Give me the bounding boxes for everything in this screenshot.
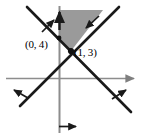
inequality-graph-figure: (0, 4) (1, 3) (0, 0, 145, 139)
y-intercept-point-dot (57, 36, 62, 41)
point-label-1-3: (1, 3) (74, 47, 97, 58)
upper-left-direction-arrow-icon (42, 20, 54, 32)
graph-canvas (0, 0, 145, 139)
lower-left-direction-arrow-icon (14, 90, 28, 98)
point-label-0-4: (0, 4) (25, 39, 48, 50)
